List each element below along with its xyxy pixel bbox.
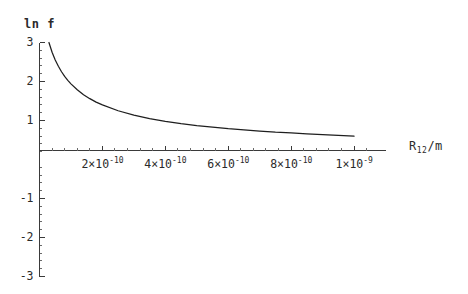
x-axis-title-suffix: /m [427, 139, 442, 153]
y-tick-label: -1 [0, 193, 34, 205]
x-tick-times-symbol: × [277, 157, 284, 171]
plot-canvas [0, 0, 468, 294]
x-axis-title: R12/m [409, 140, 443, 152]
y-tick-label: 3 [0, 37, 34, 49]
x-tick-label: 8×10-10 [270, 159, 312, 171]
data-series-line [49, 43, 354, 137]
x-tick-label: 2×10-10 [81, 159, 123, 171]
plot-container: ln f R12/m 321-1-2-3 2×10-104×10-106×10-… [0, 0, 468, 294]
x-tick-exponent: -10 [235, 156, 249, 165]
x-tick-base: 10 [284, 157, 298, 171]
x-axis-title-prefix: R [409, 139, 417, 153]
x-tick-exponent: -10 [298, 156, 312, 165]
x-tick-label: 4×10-10 [144, 159, 186, 171]
curve-group [49, 43, 354, 137]
x-tick-exponent: -10 [109, 156, 123, 165]
x-tick-exponent: -10 [172, 156, 186, 165]
x-tick-base: 10 [349, 157, 363, 171]
y-tick-label: 2 [0, 76, 34, 88]
x-axis-title-subscript: 12 [417, 146, 428, 155]
x-tick-base: 10 [221, 157, 235, 171]
x-tick-label: 6×10-10 [207, 159, 249, 171]
x-tick-exponent: -9 [363, 156, 373, 165]
x-tick-base: 10 [95, 157, 109, 171]
x-tick-base: 10 [158, 157, 172, 171]
x-tick-label: 1×10-9 [336, 159, 373, 171]
y-tick-label: 1 [0, 115, 34, 127]
y-tick-label: -2 [0, 232, 34, 244]
y-tick-label: -3 [0, 271, 34, 283]
y-axis-title: ln f [24, 18, 55, 30]
